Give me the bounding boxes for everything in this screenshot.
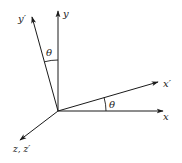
- z-axis: [20, 111, 58, 140]
- x-prime-axis: [58, 82, 158, 111]
- x-prime-axis-label: x′: [163, 78, 172, 89]
- x-axis-label: x: [163, 111, 169, 122]
- theta-label-upper: θ: [46, 47, 52, 58]
- theta-label-lower: θ: [109, 99, 115, 110]
- coordinate-rotation-diagram: x y x′ y′ z, z′ θ θ: [0, 0, 182, 163]
- y-axis-label: y: [62, 8, 69, 19]
- theta-arc-upper: [44, 60, 58, 62]
- y-prime-axis: [32, 17, 58, 111]
- z-axis-label: z, z′: [12, 144, 30, 154]
- theta-arc-lower: [104, 98, 106, 111]
- y-prime-axis-label: y′: [17, 13, 27, 24]
